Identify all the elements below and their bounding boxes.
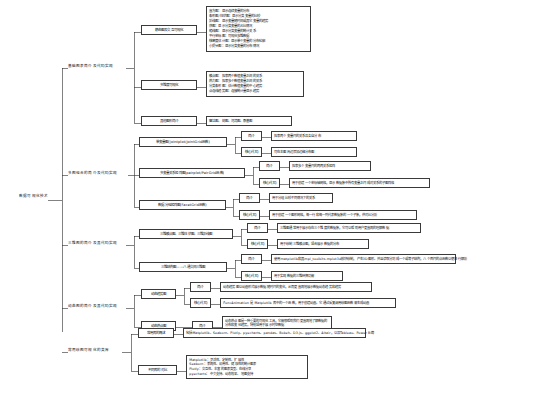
- node-dynamic-trend[interactable]: 动态趋势图: [141, 289, 176, 299]
- detail-intro-dynamic-trend: 动态趋势图以动画形式展示数据随时间的变化，从而更直观地展示数据动态趋势和趋势: [220, 282, 372, 292]
- detail-intro-facetgrid: 用于分组比较不同情况下的关系: [269, 193, 333, 203]
- label-code-pairplot[interactable]: 核心代码: [259, 178, 280, 188]
- node-static-interactive-viz[interactable]: 静态图及交互可视化: [141, 25, 197, 35]
- detail-code-3d-basic: 用于绘制三维散点图，适合展示数据的分布: [277, 239, 369, 249]
- branch-label-animated[interactable]: 动态图的简介及其代码实现: [68, 303, 126, 309]
- detail-line: 小提琴图：显示分类变量的分布情况: [209, 44, 308, 49]
- branch-label-basic-charts[interactable]: 基础图表简介及代码实现: [68, 63, 126, 69]
- branch-label-multi-plot[interactable]: 多图组合的简介及代码实现: [68, 170, 130, 176]
- branch-label-3d[interactable]: 三维图的简介及其代码实现: [68, 240, 126, 246]
- detail-code-facetgrid: 用于创建一个图形网格，每一行和每一列代表数据集的一个子集，供对比分析: [269, 210, 417, 220]
- label-code-3d-basic[interactable]: 核心代码: [247, 239, 268, 249]
- node-library-comparison[interactable]: 不同库的对比: [138, 365, 177, 375]
- node-multidimensional-viz[interactable]: 多维度可视化: [141, 80, 197, 90]
- detail-library-overview: 包括Matplotlib、Seaborn、Plotly、pyecharts、pa…: [183, 328, 366, 338]
- detail-code-dynamic-trend: FuncAnimation 是 Matplotlib 库中的一个函数，用于创建动…: [220, 298, 396, 308]
- detail-code-jointplot: 可在主图周边添加边缘分布图: [271, 147, 357, 157]
- label-code-facetgrid[interactable]: 核心代码: [239, 210, 260, 220]
- node-3d-structure[interactable]: 三维结构图——八通交间三维图: [139, 262, 227, 272]
- detail-intro-3d-basic: 三维图通常用于展示存在三个维度的数据集，它可以帮助用户更直观的理解数据: [277, 223, 421, 233]
- detail-intro-3d-structure: 使用matplotlib和其mpl_toolkits.mplot3d模块绘制，产…: [271, 254, 456, 264]
- label-intro-facetgrid[interactable]: 简介: [239, 193, 260, 203]
- mindmap-canvas: 数据可视化技术 基础图表简介及代码实现 多图组合的简介及代码实现 三维图的简介及…: [0, 0, 548, 408]
- branch-label-libraries[interactable]: 常用绘图可视化的类库: [68, 347, 122, 353]
- detail-other-charts-list: 雷达图、树图、河流图、桑基图: [206, 116, 292, 126]
- detail-multidimensional-list: 散点图：探索两个数值变量之间的关系 热力图：探索多个数值变量之间的关系 分类条形…: [206, 71, 304, 97]
- label-intro-3d-basic[interactable]: 简介: [247, 223, 268, 233]
- detail-library-comparison: Matplotlib：灵活性、定制性、扩展性 Seaborn：美观性、易用性、健…: [186, 355, 308, 379]
- node-3d-basic-charts[interactable]: 三维散点图、三维柱状图、三维折线图: [139, 229, 233, 239]
- label-intro-jointplot[interactable]: 简介: [241, 131, 262, 141]
- label-code-jointplot[interactable]: 核心代码: [241, 147, 262, 157]
- detail-code-3d-structure: 用于实现数据的三维转换功能: [271, 271, 343, 281]
- detail-intro-jointplot: 探索两个变量间的关系及各自分布: [271, 131, 357, 141]
- node-pairplot[interactable]: 多变量关系矩阵图(pairplot/PairGrid函数): [139, 168, 245, 178]
- node-facetgrid[interactable]: 数据分组矩阵图(FacetGrid函数): [139, 200, 226, 210]
- label-intro-pairplot[interactable]: 简介: [259, 161, 280, 171]
- detail-static-chart-list: 直方图：显示连续变量的分布 条形图/柱状图：显示分类变量的比较 折线图：显示变量…: [206, 6, 311, 52]
- detail-line: pyecharts：中文支持、动态效果、地图支持: [189, 372, 305, 377]
- node-jointplot[interactable]: 单变量图(jointplot/JointGrid函数): [139, 137, 227, 147]
- label-code-3d-structure[interactable]: 核心代码: [241, 271, 262, 281]
- detail-intro-pairplot: 探索多个变量间的两两关系矩阵: [289, 161, 371, 171]
- label-code-dynamic-trend[interactable]: 核心代码: [190, 298, 211, 308]
- node-other-charts[interactable]: 其他图形简介: [141, 116, 197, 126]
- label-intro-3d-structure[interactable]: 简介: [241, 254, 262, 264]
- detail-code-pairplot: 用于创建一个坐标轴网格，显示数据集中所有变量之间成对关系的子图阵格: [289, 178, 430, 188]
- node-library-overview[interactable]: 常用库的概述: [138, 328, 174, 338]
- detail-line: 点连线趋势图：连接统计量显示趋势: [209, 89, 301, 94]
- label-intro-dynamic-trend[interactable]: 简介: [190, 282, 211, 292]
- root-node[interactable]: 数据可视化技术: [6, 194, 48, 199]
